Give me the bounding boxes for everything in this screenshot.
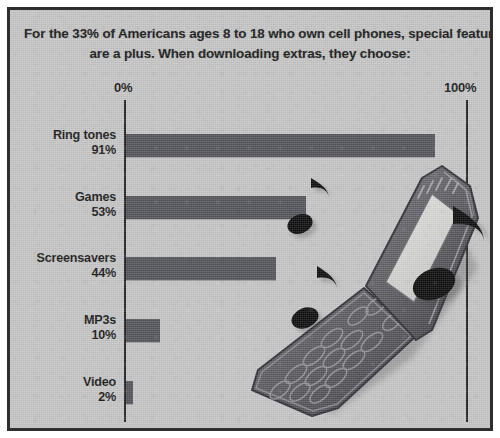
category-label-video: Video 2%	[7, 375, 116, 405]
bar-mp3s	[126, 319, 160, 342]
axis-line-zero	[124, 100, 126, 422]
category-label-ring-tones: Ring tones 91%	[7, 128, 116, 158]
axis-label-end: 100%	[444, 80, 476, 95]
page-title: For the 33% of Americans ages 8 to 18 wh…	[24, 24, 476, 64]
category-value: 10%	[7, 328, 116, 343]
category-label-screensavers: Screensavers 44%	[7, 251, 116, 281]
category-label-mp3s: MP3s 10%	[7, 313, 116, 343]
category-name: Screensavers	[7, 251, 116, 266]
bar-video	[126, 381, 133, 404]
bar-ring-tones	[126, 134, 435, 157]
category-value: 53%	[7, 205, 116, 220]
cell-phone-illustration	[246, 160, 490, 422]
category-value: 44%	[7, 266, 116, 281]
category-label-games: Games 53%	[7, 190, 116, 220]
category-name: MP3s	[7, 313, 116, 328]
axis-label-start: 0%	[114, 80, 132, 95]
category-name: Ring tones	[7, 128, 116, 143]
category-value: 91%	[7, 143, 116, 158]
category-name: Video	[7, 375, 116, 390]
category-name: Games	[7, 190, 116, 205]
music-note-small	[284, 178, 329, 238]
infographic-panel: For the 33% of Americans ages 8 to 18 wh…	[7, 7, 493, 431]
category-value: 2%	[7, 390, 116, 405]
headline-line-2: are a plus. When downloading extras, the…	[24, 44, 476, 64]
headline-line-1: For the 33% of Americans ages 8 to 18 wh…	[24, 24, 476, 44]
